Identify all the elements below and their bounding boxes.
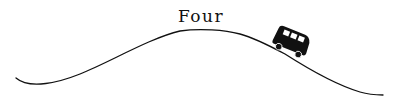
diagram-label: Four — [178, 6, 224, 26]
hill-diagram: Four — [0, 0, 400, 103]
van-icon — [270, 24, 312, 60]
